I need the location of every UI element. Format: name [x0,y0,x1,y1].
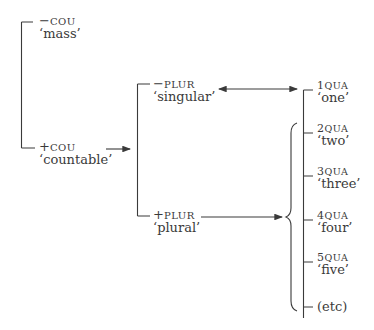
node-mass: −COU ‘mass’ [39,14,81,40]
node-qua-3: 3QUA ‘three’ [317,166,360,190]
node-qua-4: 4QUA ‘four’ [317,210,353,234]
node-qua-5: 5QUA ‘five’ [317,252,349,276]
node-etc: (etc) [317,300,347,313]
node-plural: +PLUR ‘plural’ [153,208,200,234]
gloss-label: ‘singular’ [153,90,215,103]
plur-bracket [138,84,151,216]
node-qua-1: 1QUA ‘one’ [317,80,349,104]
node-singular: −PLUR ‘singular’ [153,77,215,103]
gloss-label: ‘plural’ [153,221,200,234]
qua-bracket [304,90,314,318]
node-qua-2: 2QUA ‘two’ [317,123,349,147]
gloss-label: ‘countable’ [39,153,112,166]
gloss-label: ‘mass’ [39,27,81,40]
curly-brace [286,123,297,311]
cou-bracket [22,22,36,148]
node-countable: +COU ‘countable’ [39,140,112,166]
